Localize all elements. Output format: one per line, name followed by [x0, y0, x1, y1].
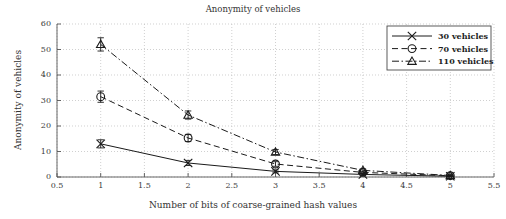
x-tick-label: 2	[173, 181, 203, 190]
y-tick-label: 0	[27, 172, 51, 181]
y-tick-label: 20	[27, 121, 51, 130]
legend-label-2: 110 vehicles	[438, 56, 494, 66]
y-tick-label: 30	[27, 96, 51, 105]
x-tick-label: 4	[348, 181, 378, 190]
chart-plot-area	[0, 0, 506, 219]
x-tick-label: 4.5	[392, 181, 422, 190]
x-tick-label: 1	[86, 181, 116, 190]
legend-label-0: 30 vehicles	[438, 31, 488, 41]
x-tick-label: 5	[435, 181, 465, 190]
y-tick-label: 40	[27, 70, 51, 79]
legend-label-1: 70 vehicles	[438, 44, 488, 54]
x-tick-label: 3	[261, 181, 291, 190]
y-tick-label: 10	[27, 147, 51, 156]
chart-figure: Anonymity of vehicles Anonymity of vehic…	[0, 0, 506, 219]
x-tick-label: 3.5	[304, 181, 334, 190]
x-tick-label: 0.5	[42, 181, 72, 190]
x-tick-label: 1.5	[129, 181, 159, 190]
x-tick-label: 5.5	[479, 181, 506, 190]
x-tick-label: 2.5	[217, 181, 247, 190]
y-tick-label: 50	[27, 45, 51, 54]
y-tick-label: 60	[27, 19, 51, 28]
